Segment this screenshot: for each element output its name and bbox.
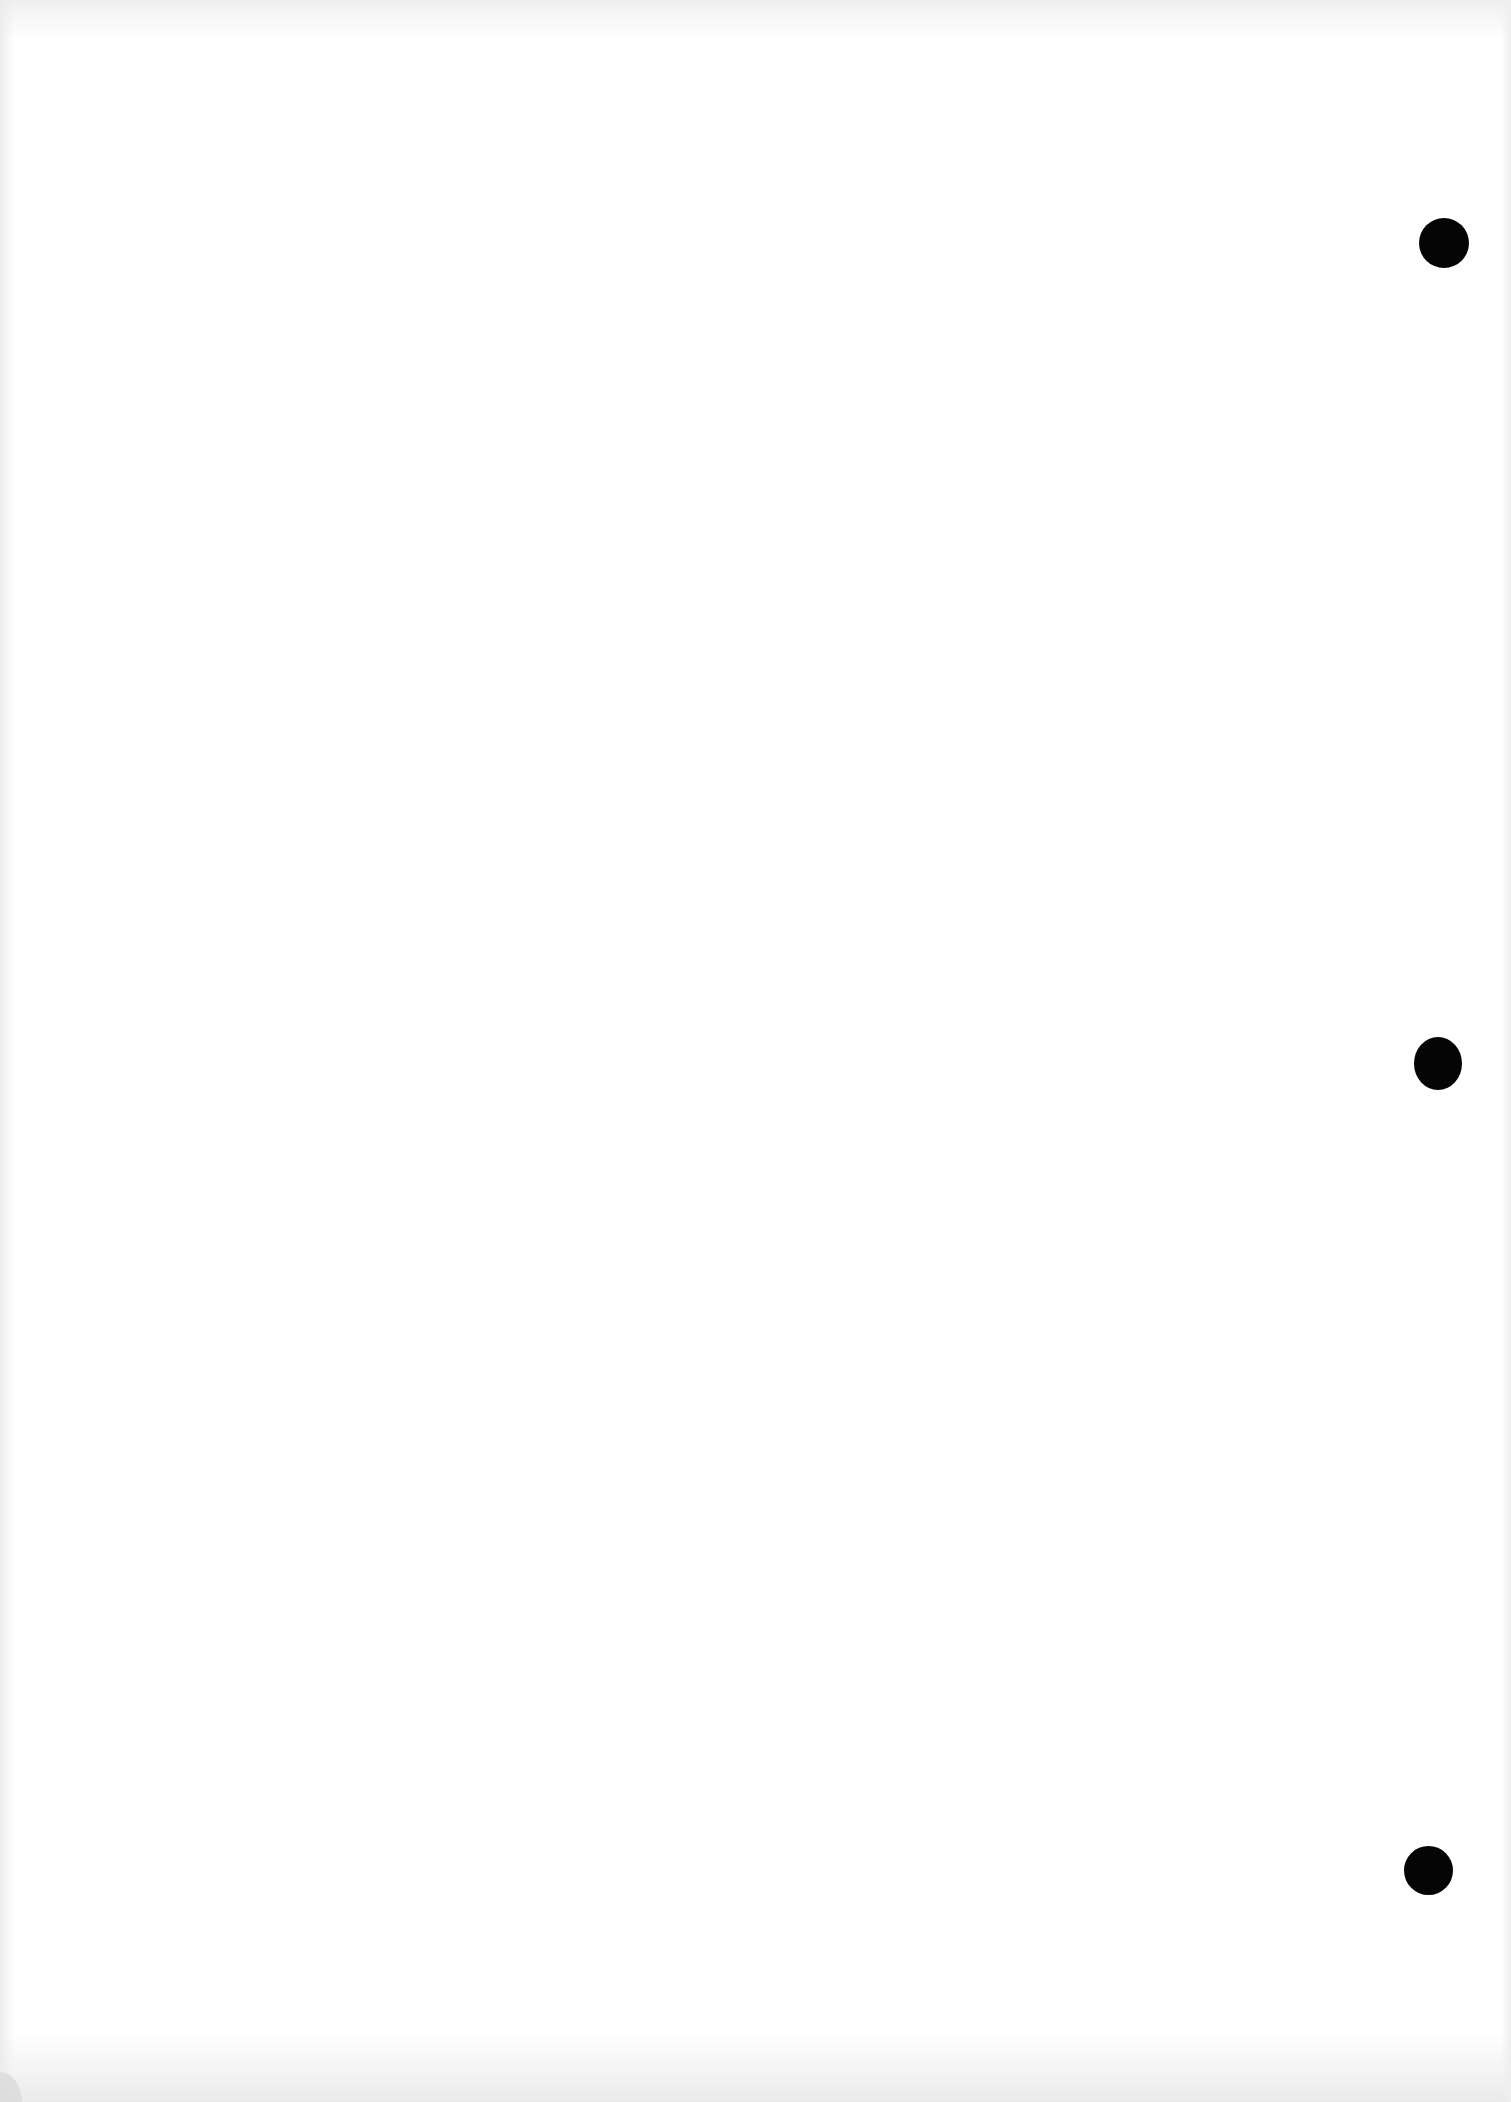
scan-edge-bottom xyxy=(0,2032,1511,2102)
punch-hole-top xyxy=(1419,218,1469,268)
punch-hole-middle xyxy=(1414,1037,1462,1090)
scan-edge-top xyxy=(0,0,1511,40)
scan-edge-left xyxy=(0,0,14,2102)
scan-edge-right xyxy=(1501,0,1511,2102)
scanned-page xyxy=(0,0,1511,2102)
punch-hole-bottom xyxy=(1404,1846,1453,1895)
